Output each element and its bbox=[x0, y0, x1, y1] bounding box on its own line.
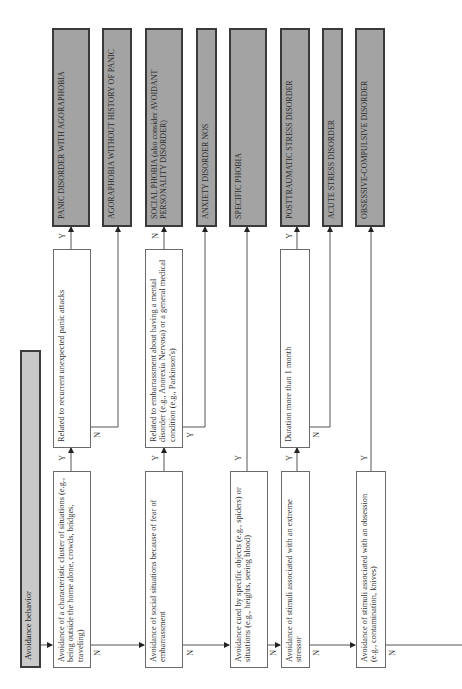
outcome-label: AGORAPHOBIA WITHOUT HISTORY OF PANIC bbox=[104, 30, 130, 225]
outcome-acute-stress-disorder: ACUTE STRESS DISORDER bbox=[322, 28, 343, 227]
question-social-situations: Avoidance of social situations because o… bbox=[145, 471, 183, 668]
question-label: Avoidance of social situations because o… bbox=[146, 472, 182, 667]
start-node-label: Avoidance behavior bbox=[22, 352, 39, 666]
edge-label-yes: Y bbox=[361, 455, 369, 461]
edge-label-no: N bbox=[313, 432, 321, 438]
subquestion-label: Related to embarrassment about having a … bbox=[146, 250, 182, 447]
outcome-label: ANXIETY DISORDER NOS bbox=[198, 30, 215, 225]
subquestion-label: Related to recurrent unexpected panic at… bbox=[54, 250, 90, 447]
edge-label-no: N bbox=[270, 650, 278, 656]
outcome-label: SPECIFIC PHOBIA bbox=[231, 30, 265, 225]
edge-label-yes: Y bbox=[286, 233, 294, 239]
edge-label-no: N bbox=[94, 432, 102, 438]
question-label: Avoidance of stimuli associated with an … bbox=[282, 472, 309, 667]
edge-label-no: N bbox=[152, 233, 160, 239]
question-label: Avoidance of a characteristic cluster of… bbox=[54, 472, 90, 667]
question-obsession: Avoidance of stimuli associated with an … bbox=[356, 471, 386, 668]
outcome-ocd: OBSESSIVE-COMPULSIVE DISORDER bbox=[355, 28, 385, 227]
edge-label-no: N bbox=[187, 650, 195, 656]
edge-label-yes: Y bbox=[59, 233, 67, 239]
start-node-avoidance-behavior: Avoidance behavior bbox=[20, 350, 41, 668]
question-label: Avoidance cued by specific objects (e.g.… bbox=[231, 472, 267, 667]
edge-label-yes: Y bbox=[235, 455, 243, 461]
outcome-label: OBSESSIVE-COMPULSIVE DISORDER bbox=[357, 30, 383, 225]
edge-label-yes: Y bbox=[286, 455, 294, 461]
subquestion-label: Duration more than 1 month bbox=[281, 250, 309, 447]
outcome-label: POSTTRAUMATIC STRESS DISORDER bbox=[282, 30, 308, 225]
subquestion-panic-attacks: Related to recurrent unexpected panic at… bbox=[53, 249, 91, 448]
outcome-agoraphobia-without-panic: AGORAPHOBIA WITHOUT HISTORY OF PANIC bbox=[102, 28, 132, 227]
question-cluster-of-situations: Avoidance of a characteristic cluster of… bbox=[53, 471, 91, 668]
outcome-specific-phobia: SPECIFIC PHOBIA bbox=[229, 28, 267, 227]
question-label: Avoidance of stimuli associated with an … bbox=[357, 472, 385, 667]
outcome-label: PANIC DISORDER WITH AGORAPHOBIA bbox=[54, 30, 88, 225]
subquestion-embarrassment-condition: Related to embarrassment about having a … bbox=[145, 249, 183, 448]
outcome-ptsd: POSTTRAUMATIC STRESS DISORDER bbox=[280, 28, 310, 227]
edge-label-yes: Y bbox=[187, 432, 195, 438]
edge-label-yes: Y bbox=[152, 455, 160, 461]
outcome-panic-disorder-with-agoraphobia: PANIC DISORDER WITH AGORAPHOBIA bbox=[52, 28, 90, 227]
edge-label-no: N bbox=[389, 650, 397, 656]
question-extreme-stressor: Avoidance of stimuli associated with an … bbox=[281, 471, 310, 668]
outcome-label: ACUTE STRESS DISORDER bbox=[324, 30, 341, 225]
outcome-social-phobia: SOCIAL PHOBIA (also consider AVOIDANT PE… bbox=[145, 28, 183, 227]
outcome-anxiety-disorder-nos: ANXIETY DISORDER NOS bbox=[196, 28, 217, 227]
edge-label-yes: Y bbox=[59, 455, 67, 461]
edge-label-no: N bbox=[313, 650, 321, 656]
outcome-label: SOCIAL PHOBIA (also consider AVOIDANT PE… bbox=[147, 30, 181, 225]
subquestion-duration: Duration more than 1 month bbox=[280, 249, 310, 448]
edge-label-no: N bbox=[94, 650, 102, 656]
question-specific-objects: Avoidance cued by specific objects (e.g.… bbox=[230, 471, 268, 668]
